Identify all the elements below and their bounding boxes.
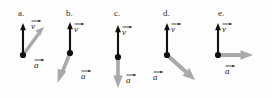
acceleration-overbar-arrow-icon-c (126, 73, 131, 77)
panel-d-vectors (144, 0, 204, 98)
acceleration-vector-d (167, 55, 195, 80)
acceleration-label-e: a (225, 64, 230, 76)
velocity-overbar-arrow-icon-c (122, 25, 126, 29)
origin-dot-d (164, 52, 170, 58)
origin-dot-b (67, 50, 73, 56)
panel-label-c: c. (114, 9, 120, 18)
acceleration-label-a: a (34, 58, 39, 70)
acceleration-symbol-a: a (34, 61, 39, 70)
velocity-symbol-e: v (222, 25, 226, 34)
acceleration-vector-b (58, 53, 71, 83)
acceleration-vector-c (113, 57, 122, 88)
velocity-label-d: v (171, 22, 175, 34)
panel-e-vectors (200, 0, 272, 98)
panel-label-d: d. (163, 9, 170, 18)
origin-dot-e (215, 52, 221, 58)
panel-label-e: e. (218, 9, 224, 18)
velocity-symbol-a: v (31, 22, 35, 31)
panel-label-b: b. (66, 9, 73, 18)
acceleration-symbol-c: a (126, 76, 131, 85)
velocity-symbol-c: v (122, 28, 126, 37)
panel-e: e. v a (200, 0, 272, 98)
velocity-vector-b (67, 22, 73, 53)
velocity-label-a: v (31, 19, 35, 31)
velocity-overbar-arrow-icon-e (222, 22, 226, 26)
acceleration-label-d: a (153, 70, 158, 82)
acceleration-symbol-b: a (81, 72, 86, 81)
velocity-vector-e (215, 23, 221, 55)
velocity-overbar-arrow-icon-a (31, 19, 35, 23)
velocity-symbol-d: v (171, 25, 175, 34)
velocity-label-b: v (74, 22, 78, 34)
acceleration-symbol-d: a (153, 73, 158, 82)
acceleration-overbar-arrow-icon-a (34, 58, 39, 62)
origin-dot-c (115, 54, 121, 60)
velocity-vector-c (115, 25, 121, 57)
velocity-vector-d (164, 23, 170, 55)
acceleration-label-b: a (81, 69, 86, 81)
velocity-symbol-b: v (74, 25, 78, 34)
acceleration-overbar-arrow-icon-d (153, 70, 158, 74)
acceleration-vector-e (218, 50, 253, 59)
acceleration-overbar-arrow-icon-b (81, 69, 86, 73)
acceleration-overbar-arrow-icon-e (225, 64, 230, 68)
panel-label-a: a. (18, 9, 24, 18)
origin-dot-a (20, 52, 26, 58)
acceleration-vector-a (23, 27, 44, 55)
velocity-label-e: v (222, 22, 226, 34)
velocity-overbar-arrow-icon-b (74, 22, 78, 26)
vector-diagram-figure: a. v a (0, 0, 272, 98)
panel-d: d. v a (144, 0, 204, 98)
velocity-label-c: v (122, 25, 126, 37)
velocity-overbar-arrow-icon-d (171, 22, 175, 26)
acceleration-symbol-e: a (225, 67, 230, 76)
acceleration-label-c: a (126, 73, 131, 85)
